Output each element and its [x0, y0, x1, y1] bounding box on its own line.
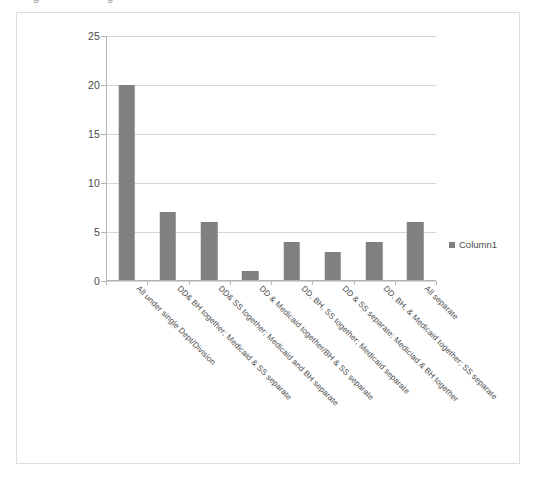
clipped-text-fragment-right: g — [107, 0, 113, 3]
bar-slot — [106, 36, 147, 281]
y-axis-tick-label: 0 — [60, 275, 100, 287]
clipped-text-fragment-left: g — [33, 0, 39, 3]
clipped-top-text: g g — [0, 0, 537, 9]
y-axis-tick-label: 5 — [60, 226, 100, 238]
y-axis-tick-label: 20 — [60, 79, 100, 91]
x-axis-line — [106, 280, 436, 281]
bar-slot — [189, 36, 230, 281]
bar[interactable] — [407, 222, 424, 281]
bar-slot — [436, 36, 437, 281]
x-axis-tick-label: DD, BH, & Medicaid together; SS separate — [382, 284, 388, 290]
legend-label: Column1 — [459, 239, 497, 250]
x-axis-tick-label: All separate — [423, 284, 429, 290]
bar-slot — [147, 36, 188, 281]
bar-slot — [395, 36, 436, 281]
x-axis-tick-label: DD & SS separate; Mediciad & BH together — [341, 284, 347, 290]
bar[interactable] — [118, 85, 135, 281]
legend-swatch-icon — [449, 242, 455, 248]
x-axis-tick-label: DD & Medicaid together/BH & SS separate — [258, 284, 264, 290]
bar-slot — [312, 36, 353, 281]
chart-frame: 0510152025 All under single Dept/Divisio… — [16, 12, 520, 464]
bar-slot — [354, 36, 395, 281]
bar[interactable] — [160, 212, 177, 281]
y-axis-tick-label: 10 — [60, 177, 100, 189]
x-axis-tick-label: DD& SS together; Medicaid and BH separat… — [217, 284, 223, 290]
x-axis-tick-label: DD, BH, SS together; Medicaid separate — [299, 284, 305, 290]
plot-area: 0510152025 — [106, 36, 436, 281]
x-axis-labels: All under single Dept/DivisionDD& BH tog… — [106, 284, 436, 454]
chart-legend: Column1 — [449, 239, 497, 250]
bar[interactable] — [201, 222, 218, 281]
y-axis-line — [106, 36, 107, 281]
bar-slot — [230, 36, 271, 281]
bar[interactable] — [325, 252, 342, 281]
y-axis-tick-label: 15 — [60, 128, 100, 140]
x-axis-tick-label: DD& BH together; Medicaid & SS separate — [176, 284, 182, 290]
bar[interactable] — [283, 242, 300, 281]
y-axis-tick-label: 25 — [60, 30, 100, 42]
bar[interactable] — [366, 242, 383, 281]
bar-slot — [271, 36, 312, 281]
x-axis-tick-mark — [436, 281, 437, 285]
x-axis-tick-label: All under single Dept/Division — [134, 284, 140, 290]
